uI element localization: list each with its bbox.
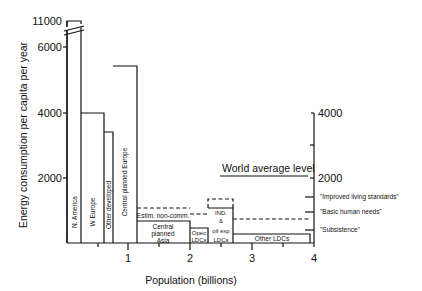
- label-ind-4: LDCs: [213, 237, 228, 243]
- label-central-planned-europe: Central planned Europe: [121, 147, 129, 216]
- x-axis-label: Population (billions): [145, 274, 237, 286]
- y-tick-2000: 2000: [38, 172, 62, 184]
- right-tick-4000: 4000: [318, 107, 342, 119]
- annotation-subsistence: "Subsistence": [320, 226, 361, 233]
- label-ind-2: &: [219, 218, 223, 224]
- label-w-europe: W Europe: [89, 197, 97, 226]
- energy-population-chart: 11000 6000 4000 2000 4000 2000 1 2 3 4 P…: [0, 0, 422, 291]
- annotation-improved: "Improved living standards": [320, 193, 399, 201]
- x-tick-2: 2: [187, 252, 193, 264]
- label-other-ldcs: Other LDCs: [255, 235, 290, 242]
- label-other-developed: Other developed: [105, 181, 113, 229]
- world-average-label: World average level: [222, 162, 315, 174]
- label-cpa-3: Asia: [157, 237, 170, 244]
- right-tick-2000: 2000: [318, 172, 342, 184]
- label-opec-1: Opec: [192, 230, 206, 236]
- y-tick-11000: 11000: [32, 15, 62, 27]
- x-tick-1: 1: [125, 252, 131, 264]
- annotation-basic: "Basic human needs": [320, 208, 382, 215]
- label-opec-2: LDCs: [191, 237, 206, 243]
- x-tick-3: 3: [249, 252, 255, 264]
- y-tick-6000: 6000: [38, 41, 62, 53]
- label-ind-1: IND.: [215, 210, 227, 216]
- y-axis-label: Energy consumption per capita per year: [17, 41, 29, 228]
- y-tick-4000: 4000: [38, 107, 62, 119]
- label-estim-non-comm: Estim. non-comm.: [137, 212, 190, 219]
- label-cpa-1: Central: [153, 223, 175, 230]
- x-tick-4: 4: [311, 252, 317, 264]
- label-ind-3: oil exp: [212, 228, 230, 234]
- label-n-america: N. America: [71, 196, 78, 228]
